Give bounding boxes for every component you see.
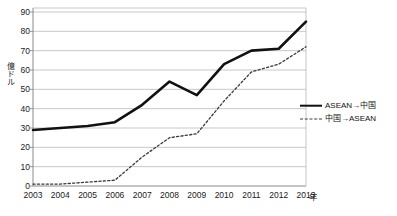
legend-dashed-line-icon	[300, 114, 322, 124]
y-tick-label: 40	[14, 104, 33, 114]
x-tick-label: 2004	[51, 190, 70, 200]
legend-solid-line-icon	[300, 101, 322, 111]
x-tick-label: 2006	[105, 190, 124, 200]
x-tick-label: 2011	[242, 190, 260, 200]
y-tick-label: 50	[14, 84, 33, 94]
y-tick-label: 70	[14, 46, 33, 56]
y-tick-label: 60	[14, 65, 33, 75]
y-tick-label: 90	[14, 7, 33, 17]
series-line-2	[33, 47, 306, 184]
x-tick-label: 2012	[269, 190, 288, 200]
x-tick-label: 2009	[187, 190, 206, 200]
legend-item-solid: ASEAN→中国	[300, 99, 395, 112]
series-line-1	[33, 22, 306, 130]
x-tick-label: 2005	[78, 190, 97, 200]
x-tick-label: 2007	[133, 190, 152, 200]
y-axis-title: 億ドル	[0, 62, 14, 86]
x-tick-label: 2013	[297, 190, 316, 200]
y-axis-tick-labels: 0102030405060708090	[14, 0, 33, 216]
legend-label-dashed: 中国→ASEAN	[325, 112, 376, 125]
chart-legend: ASEAN→中国 中国→ASEAN	[300, 99, 395, 125]
legend-label-solid: ASEAN→中国	[325, 99, 376, 112]
line-chart: 億ドル 0102030405060708090 年 ASEAN→中国 中国→AS…	[0, 0, 397, 216]
x-tick-label: 2010	[215, 190, 234, 200]
y-tick-label: 10	[14, 162, 33, 172]
y-tick-label: 30	[14, 123, 33, 133]
y-tick-label: 80	[14, 26, 33, 36]
legend-item-dashed: 中国→ASEAN	[300, 112, 395, 125]
x-tick-label: 2003	[24, 190, 43, 200]
x-tick-label: 2008	[160, 190, 179, 200]
y-tick-label: 20	[14, 142, 33, 152]
